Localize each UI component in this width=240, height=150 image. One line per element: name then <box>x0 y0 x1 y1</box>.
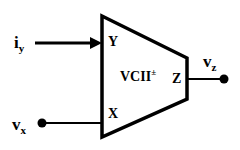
block-label: VCII± <box>120 70 156 84</box>
vx-terminal-dot <box>38 119 47 128</box>
port-x-label: X <box>108 107 118 121</box>
iy-arrowhead-icon <box>90 37 102 49</box>
vz-terminal-dot <box>220 75 229 84</box>
vx-label: vx <box>12 116 26 133</box>
port-y-label: Y <box>108 35 118 49</box>
iy-label: iy <box>14 34 24 51</box>
port-z-label: Z <box>172 72 181 86</box>
vz-label: vz <box>203 53 216 70</box>
